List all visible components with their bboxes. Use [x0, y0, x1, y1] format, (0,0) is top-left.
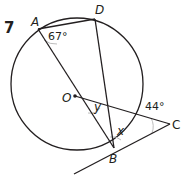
center-point-o	[73, 94, 77, 98]
angle-c-value: 44°	[145, 100, 165, 113]
angle-c-arc	[151, 118, 153, 133]
angle-y-label: y	[93, 100, 102, 114]
angle-a-value: 67°	[48, 30, 68, 43]
label-a: A	[30, 15, 39, 29]
label-c: C	[172, 118, 180, 132]
line-ab-through-o	[38, 29, 114, 148]
label-d: D	[95, 3, 104, 17]
chord-ad	[38, 19, 95, 29]
circle-theorem-diagram: 7 A D O B C 67° 44° y x	[0, 0, 186, 175]
question-number: 7	[4, 19, 14, 37]
angle-x-label: x	[116, 124, 125, 138]
label-b: B	[109, 152, 117, 166]
label-o: O	[62, 91, 71, 105]
chord-db	[95, 19, 114, 148]
